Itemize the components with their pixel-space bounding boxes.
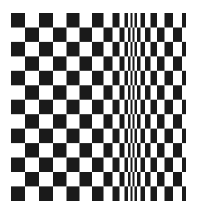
checkerboard-pattern-canvas bbox=[0, 0, 197, 212]
checkerboard-frequency-sweep-figure bbox=[0, 0, 197, 212]
